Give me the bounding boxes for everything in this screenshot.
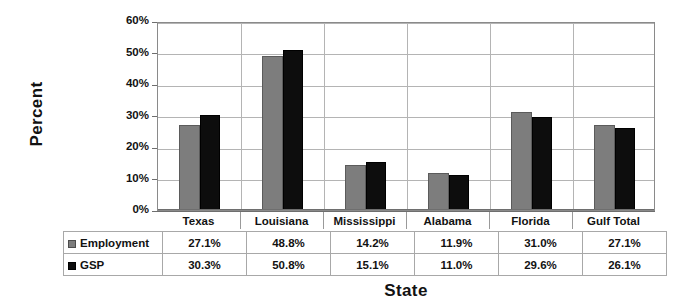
table-cell: 11.0% — [415, 254, 499, 276]
bar-employment-gulf-total — [594, 125, 615, 210]
y-axis-tick-label: 0% — [103, 203, 149, 215]
bar-employment-florida — [511, 112, 532, 210]
category-separator — [241, 23, 242, 210]
plot-area — [157, 22, 655, 211]
table-cell: 14.2% — [331, 232, 415, 254]
y-axis-tick-label: 20% — [103, 140, 149, 152]
legend-entry-employment: Employment — [64, 232, 163, 254]
chart-figure: Percent 0%10%20%30%40%50%60% TexasLouisi… — [0, 0, 688, 308]
bar-gsp-texas — [200, 115, 221, 210]
y-axis-tick-label: 50% — [103, 46, 149, 58]
bar-gsp-louisiana — [283, 50, 304, 210]
table-cell: 29.6% — [499, 254, 583, 276]
bar-employment-texas — [179, 125, 200, 210]
gridline — [158, 149, 654, 150]
table-cell: 48.8% — [247, 232, 331, 254]
category-label-separator — [323, 212, 324, 229]
gridline — [158, 117, 654, 118]
category-separator — [573, 23, 574, 210]
legend-label: Employment — [80, 237, 149, 249]
table-cell: 27.1% — [583, 232, 667, 254]
category-label-separator — [240, 212, 241, 229]
y-axis-tick-label: 30% — [103, 109, 149, 121]
category-label-mississippi: Mississippi — [323, 214, 406, 229]
gridline — [158, 54, 654, 55]
category-label-separator — [572, 212, 573, 229]
category-label-separator — [406, 212, 407, 229]
table-row: GSP30.3%50.8%15.1%11.0%29.6%26.1% — [64, 254, 667, 276]
legend-entry-gsp: GSP — [64, 254, 163, 276]
gridline — [158, 86, 654, 87]
category-label-separator — [489, 212, 490, 229]
category-separator — [407, 23, 408, 210]
x-axis-title: State — [157, 281, 655, 301]
category-label-louisiana: Louisiana — [240, 214, 323, 229]
gridline — [158, 23, 654, 24]
category-separator — [490, 23, 491, 210]
y-axis-tick-label: 40% — [103, 77, 149, 89]
table-cell: 31.0% — [499, 232, 583, 254]
table-cell: 26.1% — [583, 254, 667, 276]
bar-gsp-mississippi — [366, 162, 387, 210]
category-label-texas: Texas — [157, 214, 240, 229]
table-row: Employment27.1%48.8%14.2%11.9%31.0%27.1% — [64, 232, 667, 254]
category-label-gulf-total: Gulf Total — [572, 214, 655, 229]
bar-employment-louisiana — [262, 56, 283, 210]
bar-employment-alabama — [428, 173, 449, 210]
bar-employment-mississippi — [345, 165, 366, 210]
y-axis-title: Percent — [27, 44, 47, 184]
bar-gsp-florida — [532, 117, 553, 210]
table-cell: 30.3% — [163, 254, 247, 276]
y-axis-tick-label: 10% — [103, 172, 149, 184]
legend-swatch-icon — [68, 262, 76, 270]
legend-label: GSP — [80, 259, 104, 271]
table-cell: 11.9% — [415, 232, 499, 254]
category-label-florida: Florida — [489, 214, 572, 229]
data-table: Employment27.1%48.8%14.2%11.9%31.0%27.1%… — [63, 231, 667, 276]
table-cell: 27.1% — [163, 232, 247, 254]
bar-gsp-alabama — [449, 175, 470, 210]
gridline — [158, 180, 654, 181]
x-axis-baseline — [158, 209, 654, 210]
category-label-alabama: Alabama — [406, 214, 489, 229]
y-axis-tick-label: 60% — [103, 14, 149, 26]
legend-swatch-icon — [68, 240, 76, 248]
table-cell: 15.1% — [331, 254, 415, 276]
table-cell: 50.8% — [247, 254, 331, 276]
category-separator — [324, 23, 325, 210]
bar-gsp-gulf-total — [615, 128, 636, 210]
